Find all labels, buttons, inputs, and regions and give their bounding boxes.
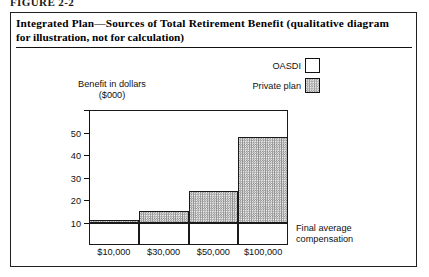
legend-swatch-oasdi bbox=[305, 58, 320, 73]
figure-title-line-2: for illustration, not for calculation) bbox=[16, 31, 414, 45]
figure-title: Integrated Plan—Sources of Total Retirem… bbox=[16, 17, 414, 44]
bar-segment-private-plan bbox=[189, 191, 239, 223]
figure-title-line-1: Integrated Plan—Sources of Total Retirem… bbox=[16, 17, 414, 31]
bar-segment-oasdi bbox=[139, 223, 189, 246]
y-tick-label-10: 10 bbox=[71, 219, 81, 229]
x-tick-label-30000: $30,000 bbox=[139, 247, 189, 257]
legend-label-oasdi: OASDI bbox=[272, 61, 301, 71]
title-divider-rule bbox=[16, 47, 412, 48]
legend-label-private-plan: Private plan bbox=[252, 81, 301, 91]
x-tick-label-50000: $50,000 bbox=[189, 247, 239, 257]
bar-segment-private-plan bbox=[139, 211, 189, 222]
y-tick-label-40: 40 bbox=[71, 151, 81, 161]
y-axis-title-line-2: ($000) bbox=[52, 90, 172, 101]
legend-swatch-private-plan bbox=[305, 78, 320, 93]
bar-segment-oasdi bbox=[89, 223, 139, 246]
bar-10000 bbox=[89, 110, 139, 245]
x-tick-label-100000: $100,000 bbox=[238, 247, 288, 257]
y-axis-title: Benefit in dollars ($000) bbox=[52, 79, 172, 101]
bar-segment-oasdi bbox=[189, 223, 239, 246]
bar-100000 bbox=[238, 110, 288, 245]
x-tick-label-10000: $10,000 bbox=[89, 247, 139, 257]
plot-area: 1020304050 $10,000$30,000$50,000$100,000 bbox=[89, 110, 288, 245]
chart-legend: OASDI Private plan bbox=[196, 57, 320, 94]
y-tick-label-20: 20 bbox=[71, 196, 81, 206]
y-tick-label-30: 30 bbox=[71, 174, 81, 184]
bar-50000 bbox=[189, 110, 239, 245]
x-axis-title-line-1: Final average bbox=[296, 223, 353, 234]
legend-item-oasdi: OASDI bbox=[196, 57, 320, 74]
legend-item-private-plan: Private plan bbox=[196, 77, 320, 94]
bar-segment-private-plan bbox=[238, 137, 288, 223]
bar-segment-oasdi bbox=[238, 223, 288, 246]
bar-30000 bbox=[139, 110, 189, 245]
x-axis-title-line-2: compensation bbox=[296, 234, 353, 245]
x-axis-title: Final average compensation bbox=[296, 223, 353, 246]
bar-segment-private-plan bbox=[89, 220, 139, 222]
figure-number-caption: FIGURE 2-2 bbox=[10, 0, 74, 6]
y-axis-title-line-1: Benefit in dollars bbox=[52, 79, 172, 90]
y-tick-label-50: 50 bbox=[71, 129, 81, 139]
figure-root: FIGURE 2-2 Integrated Plan—Sources of To… bbox=[0, 0, 429, 277]
